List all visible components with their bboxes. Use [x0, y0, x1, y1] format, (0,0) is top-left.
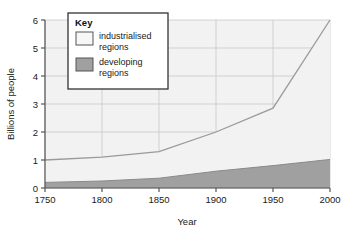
legend-title: Key — [75, 17, 93, 28]
svg-text:2000: 2000 — [319, 194, 340, 205]
x-axis-ticks — [45, 188, 330, 192]
svg-text:1800: 1800 — [91, 194, 112, 205]
svg-text:0: 0 — [33, 183, 38, 194]
svg-text:2: 2 — [33, 127, 38, 138]
svg-text:4: 4 — [33, 71, 38, 82]
x-axis-title: Year — [177, 216, 196, 227]
y-axis-title: Billions of people — [5, 68, 16, 140]
y-axis-tick-labels: 6543210 — [33, 15, 38, 194]
svg-text:3: 3 — [33, 99, 38, 110]
chart-container: 6543210 175018001850190019502000 Billion… — [0, 0, 354, 241]
legend-label-industrialised-line1: industrialised — [99, 31, 152, 41]
legend-label-developing-line2: regions — [99, 68, 129, 78]
chart-legend: Key industrialised regions developing re… — [68, 13, 168, 89]
legend-label-developing-line1: developing — [99, 57, 143, 67]
svg-text:6: 6 — [33, 15, 38, 26]
legend-swatch-developing — [76, 58, 93, 71]
svg-text:1750: 1750 — [34, 194, 55, 205]
svg-text:1950: 1950 — [262, 194, 283, 205]
svg-text:1900: 1900 — [205, 194, 226, 205]
legend-swatch-industrialised — [76, 32, 93, 45]
population-growth-area-chart: 6543210 175018001850190019502000 Billion… — [0, 0, 354, 241]
svg-text:1: 1 — [33, 155, 38, 166]
svg-text:5: 5 — [33, 43, 38, 54]
x-axis-tick-labels: 175018001850190019502000 — [34, 194, 340, 205]
legend-label-industrialised-line2: regions — [99, 42, 129, 52]
svg-text:1850: 1850 — [148, 194, 169, 205]
